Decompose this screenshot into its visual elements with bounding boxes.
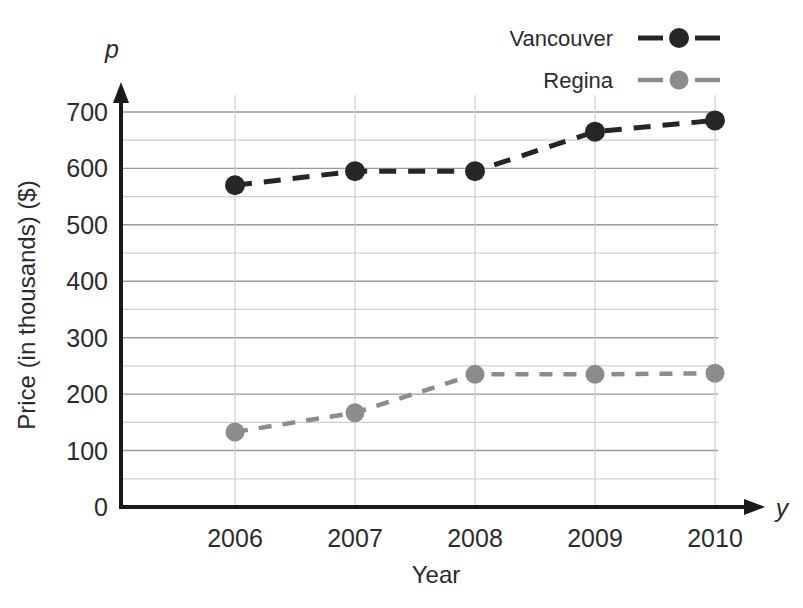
- y-tick-label: 200: [66, 380, 108, 408]
- x-tick-label: 2007: [327, 524, 383, 552]
- legend-marker-icon: [669, 28, 689, 48]
- legend-label: Regina: [543, 68, 613, 93]
- y-tick-label: 500: [66, 211, 108, 239]
- x-axis-title: Year: [412, 561, 461, 588]
- legend-label: Vancouver: [509, 26, 613, 51]
- chart-canvas: p y 0100200300400500600700 2006200720082…: [0, 0, 803, 608]
- y-tick-label: 300: [66, 324, 108, 352]
- data-point-marker: [706, 364, 725, 383]
- y-tick-label: 0: [94, 493, 108, 521]
- x-tick-label: 2009: [567, 524, 623, 552]
- x-tick-label: 2008: [447, 524, 503, 552]
- data-point-marker: [585, 122, 605, 142]
- y-tick-label: 100: [66, 437, 108, 465]
- data-point-marker: [226, 422, 245, 441]
- y-axis-variable-symbol: p: [104, 35, 119, 63]
- data-point-marker: [586, 365, 605, 384]
- x-tick-label: 2006: [207, 524, 263, 552]
- data-point-marker: [466, 365, 485, 384]
- x-axis-variable-symbol: y: [774, 494, 790, 522]
- data-point-marker: [345, 161, 365, 181]
- data-point-marker: [465, 161, 485, 181]
- y-tick-label: 700: [66, 98, 108, 126]
- x-tick-label: 2010: [687, 524, 743, 552]
- price-line-chart: p y 0100200300400500600700 2006200720082…: [0, 0, 803, 608]
- data-point-marker: [346, 403, 365, 422]
- y-tick-label: 400: [66, 267, 108, 295]
- y-tick-label: 600: [66, 154, 108, 182]
- data-point-marker: [705, 110, 725, 130]
- legend-marker-icon: [670, 71, 689, 90]
- data-point-marker: [225, 175, 245, 195]
- y-axis-title: Price (in thousands) ($): [13, 180, 40, 429]
